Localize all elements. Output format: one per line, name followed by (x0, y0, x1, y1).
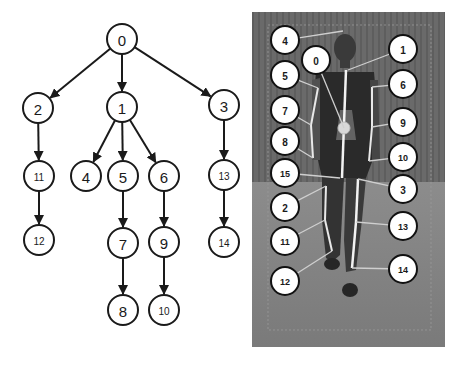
joint-label-12: 12 (271, 267, 299, 295)
node-label: 10 (158, 306, 170, 317)
joint-hierarchy-tree: 01234567891011121314 (23, 24, 239, 325)
joint-label-3: 3 (389, 175, 417, 203)
label-text: 4 (282, 36, 288, 47)
node-label: 7 (119, 236, 127, 253)
joint-label-13: 13 (389, 212, 417, 240)
tree-edge-2-11 (38, 123, 39, 160)
node-label: 0 (118, 32, 126, 49)
joint-label-6: 6 (389, 70, 417, 98)
label-text: 10 (398, 153, 408, 163)
joint-label-15: 15 (271, 159, 299, 187)
label-text: 7 (282, 106, 288, 117)
label-text: 5 (282, 71, 288, 82)
joint-label-14: 14 (389, 255, 417, 283)
joint-label-7: 7 (271, 96, 299, 124)
tree-node-3: 3 (209, 90, 239, 120)
tree-node-12: 12 (24, 225, 54, 255)
node-label: 13 (218, 171, 230, 182)
annotated-photo: 4057815211121691031314 (252, 12, 445, 347)
label-text: 6 (400, 80, 406, 91)
tree-node-2: 2 (23, 93, 53, 123)
joint-label-1: 1 (389, 35, 417, 63)
label-text: 11 (280, 237, 290, 247)
label-text: 14 (398, 265, 408, 275)
tree-edge-1-6 (130, 120, 156, 163)
tree-node-6: 6 (149, 161, 179, 191)
node-label: 11 (34, 172, 45, 183)
tree-node-14: 14 (209, 227, 239, 257)
node-label: 14 (218, 238, 230, 249)
tree-node-0: 0 (107, 24, 137, 54)
tree-edge-1-4 (93, 120, 115, 162)
hip-center-joint (338, 122, 350, 134)
joint-label-0: 0 (302, 46, 330, 74)
tree-edge-0-3 (135, 47, 211, 96)
joint-label-11: 11 (271, 227, 299, 255)
tree-node-8: 8 (108, 295, 138, 325)
joint-label-4: 4 (271, 26, 299, 54)
tree-node-13: 13 (209, 160, 239, 190)
tree-node-7: 7 (108, 228, 138, 258)
tree-node-11: 11 (24, 161, 54, 191)
node-label: 9 (160, 235, 168, 252)
tree-node-10: 10 (149, 295, 179, 325)
tree-node-5: 5 (108, 161, 138, 191)
tree-edge-0-2 (50, 49, 110, 98)
node-label: 2 (34, 101, 42, 118)
joint-label-8: 8 (271, 127, 299, 155)
joint-label-5: 5 (271, 61, 299, 89)
joint-label-2: 2 (271, 193, 299, 221)
label-text: 9 (400, 118, 406, 129)
node-label: 6 (160, 169, 168, 186)
node-label: 8 (119, 303, 127, 320)
label-text: 12 (280, 277, 290, 287)
skeleton-figure: 01234567891011121314 (0, 0, 465, 365)
label-text: 0 (313, 56, 319, 67)
label-text: 8 (282, 137, 288, 148)
node-label: 4 (82, 169, 90, 186)
label-text: 1 (400, 45, 406, 56)
joint-label-10: 10 (389, 143, 417, 171)
tree-node-1: 1 (107, 92, 137, 122)
leader-line-14 (352, 268, 389, 269)
tree-nodes: 01234567891011121314 (23, 24, 239, 325)
node-label: 3 (220, 98, 228, 115)
joint-label-9: 9 (389, 108, 417, 136)
tree-edge-1-5 (122, 122, 123, 160)
label-text: 3 (400, 185, 406, 196)
node-label: 1 (118, 100, 126, 117)
tree-node-9: 9 (149, 227, 179, 257)
node-label: 5 (119, 169, 127, 186)
label-text: 13 (398, 222, 408, 232)
tree-node-4: 4 (71, 161, 101, 191)
label-text: 2 (282, 203, 288, 214)
node-label: 12 (33, 236, 45, 247)
label-text: 15 (280, 169, 290, 179)
